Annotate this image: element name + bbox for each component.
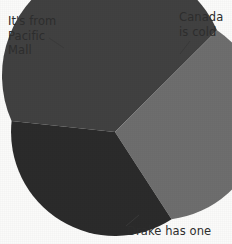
pie-chart-figure: It's from Pacific Mall Canada is cold Dr… [0, 0, 232, 244]
slice-label-pacific-mall-line3: Mall [8, 43, 56, 58]
slice-label-canada-is-cold-line2: is cold [179, 25, 223, 40]
slice-label-canada-is-cold-line1: Canada [179, 10, 223, 25]
slice-label-drake-has-one-line1: Drake has one [127, 224, 211, 239]
slice-label-pacific-mall: It's from Pacific Mall [8, 14, 56, 58]
slice-label-canada-is-cold: Canada is cold [179, 10, 223, 39]
slice-label-pacific-mall-line1: It's from [8, 14, 56, 29]
slice-label-pacific-mall-line2: Pacific [8, 29, 56, 44]
slice-label-drake-has-one: Drake has one [127, 224, 211, 239]
